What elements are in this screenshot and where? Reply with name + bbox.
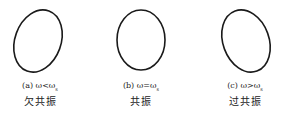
ellipse-over-resonance xyxy=(205,0,285,80)
panel-c-over-resonance: (c) ω>ωs 过共振 xyxy=(205,0,285,116)
caption-c-name: 过共振 xyxy=(205,93,285,108)
panel-a-under-resonance: (a) ω<ωs 欠共振 xyxy=(0,0,80,116)
caption-b-condition: (b) ω=ωs xyxy=(101,81,181,92)
ellipse-resonance xyxy=(101,0,181,80)
panel-b-resonance: (b) ω=ωs 共振 xyxy=(101,0,181,116)
ellipse-under-resonance xyxy=(0,0,80,80)
caption-b-name: 共振 xyxy=(101,93,181,108)
caption-a-name: 欠共振 xyxy=(0,93,80,108)
caption-c-condition: (c) ω>ωs xyxy=(205,81,285,92)
caption-a-condition: (a) ω<ωs xyxy=(0,81,80,92)
